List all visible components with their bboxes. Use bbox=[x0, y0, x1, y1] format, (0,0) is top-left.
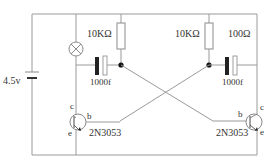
q2-base-label: b bbox=[238, 109, 243, 119]
q1-collector-label: c bbox=[70, 101, 74, 111]
resistor-r2-label: 10KΩ bbox=[175, 28, 200, 39]
resistor-r3-label: 100Ω bbox=[228, 28, 250, 39]
q2-emitter-label: e bbox=[260, 127, 264, 137]
lamp-icon bbox=[69, 42, 83, 56]
capacitor-c1-label: 1000f bbox=[90, 77, 111, 87]
capacitor-c2-icon bbox=[225, 56, 237, 75]
cross-wire-left-to-right-base bbox=[121, 65, 213, 121]
battery-icon bbox=[25, 72, 39, 78]
q2-collector-label: c bbox=[260, 102, 264, 112]
resistor-r1-icon bbox=[117, 23, 125, 49]
transistor-q1-icon bbox=[70, 114, 86, 131]
capacitor-c2-label: 1000f bbox=[222, 77, 243, 87]
q1-emitter-label: e bbox=[68, 128, 72, 138]
capacitor-c1-icon bbox=[95, 56, 107, 75]
resistor-r1-label: 10KΩ bbox=[87, 28, 112, 39]
circuit-diagram: 4.5v 1000f 10KΩ 10KΩ 1000f 100Ω bbox=[0, 0, 277, 167]
resistor-r2-icon bbox=[205, 23, 213, 49]
cross-wire-right-to-left-base bbox=[120, 65, 209, 121]
transistor-q2-label: 2N3053 bbox=[216, 127, 248, 138]
transistor-q1-label: 2N3053 bbox=[89, 127, 121, 138]
battery-label: 4.5v bbox=[3, 75, 21, 86]
q1-base-label: b bbox=[87, 111, 92, 121]
